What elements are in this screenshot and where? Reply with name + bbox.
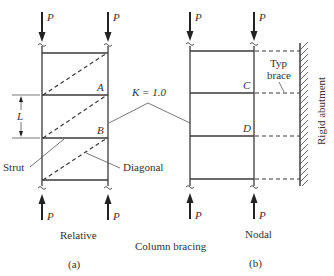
panel-b-sublabel: (b)	[249, 257, 262, 270]
node-label-d: D	[242, 122, 251, 134]
panel-a-sublabel: (a)	[68, 258, 81, 271]
load-arrow-bottom-right-b	[250, 186, 258, 220]
diagonal-leader	[86, 153, 120, 168]
brace-callout-line1: Typ	[270, 57, 287, 69]
effective-length-callout	[109, 103, 190, 123]
load-label: P	[46, 210, 54, 222]
panel-b-nodal-bracing: Rigid abutment Typ brace P P P	[186, 11, 327, 270]
panel-a-type-label: Relative	[60, 229, 97, 241]
load-arrow-bottom-left-b	[186, 186, 194, 220]
load-label: P	[258, 209, 266, 221]
abutment-label: Rigid abutment	[315, 77, 327, 145]
figure-caption: Column bracing	[135, 240, 207, 252]
load-arrow-top-right-b	[250, 12, 258, 46]
node-label-c: C	[243, 79, 251, 91]
k-factor-label: K = 1.0	[131, 86, 167, 98]
load-label: P	[194, 209, 202, 221]
rigid-abutment	[300, 42, 308, 186]
load-arrow-bottom-right-a	[104, 187, 112, 221]
diagonal-callout: Diagonal	[123, 161, 163, 173]
brace-leader	[279, 82, 284, 92]
brace-callout-line2: brace	[267, 69, 291, 81]
node-label-b: B	[97, 124, 104, 136]
node-label-a: A	[96, 81, 104, 93]
load-label: P	[46, 11, 54, 23]
load-arrow-top-left-b	[186, 12, 194, 46]
strut-leader	[30, 139, 64, 167]
load-arrow-top-right-a	[104, 12, 112, 47]
load-arrow-bottom-left-a	[38, 187, 46, 221]
load-arrow-top-left-a	[38, 12, 46, 47]
length-label: L	[16, 110, 23, 122]
diagram-svg: P P P P A B	[0, 0, 334, 276]
strut-callout: Strut	[3, 161, 24, 173]
load-label: P	[258, 11, 266, 23]
panel-a-relative-bracing: P P P P A B	[3, 11, 163, 271]
load-label: P	[194, 11, 202, 23]
column-bracing-figure: P P P P A B	[0, 0, 334, 276]
diagonal-3	[43, 138, 107, 180]
panel-b-type-label: Nodal	[245, 228, 272, 240]
load-label: P	[112, 210, 120, 222]
load-label: P	[112, 11, 120, 23]
